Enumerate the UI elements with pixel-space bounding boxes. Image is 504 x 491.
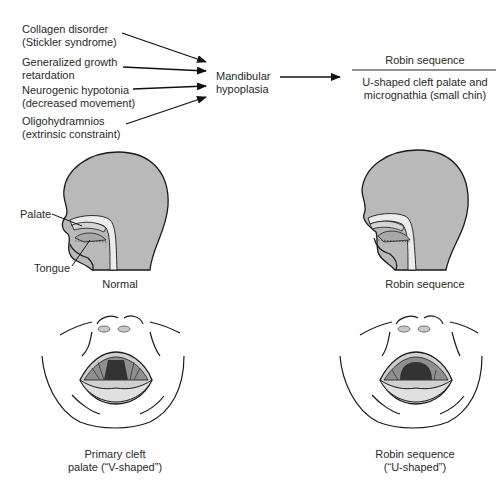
caption-line2: palate (“V-shaped”)	[55, 461, 175, 474]
caption-line1: Robin sequence	[355, 448, 475, 461]
frontal-illustrations	[0, 0, 504, 491]
left-nostril	[398, 326, 410, 332]
u-shaped-mouth	[380, 352, 452, 404]
right-nostril	[118, 326, 130, 332]
caption-line2: (“U-shaped”)	[355, 461, 475, 474]
right-nostril	[418, 326, 430, 332]
left-nostril	[98, 326, 110, 332]
caption-line1: Primary cleft	[55, 448, 175, 461]
v-shaped-mouth	[80, 352, 152, 404]
